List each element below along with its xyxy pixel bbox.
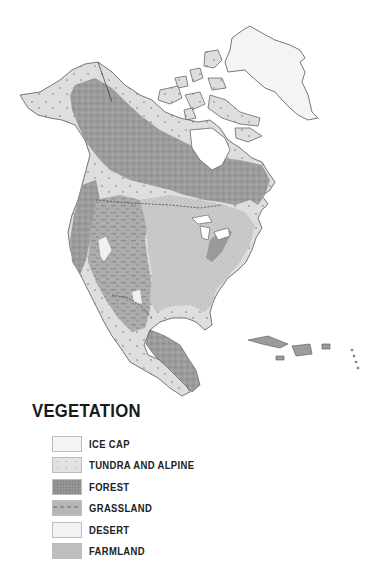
grassland-region (88, 195, 152, 332)
legend-label: ICE CAP (89, 438, 130, 450)
farmland-region (140, 195, 255, 312)
legend-label: TUNDRA AND ALPINE (89, 459, 194, 471)
legend-item-grassland: GRASSLAND (52, 498, 206, 520)
legend-item-ice-cap: ICE CAP (52, 433, 206, 455)
legend-label: FARMLAND (89, 545, 145, 557)
legend-label: DESERT (89, 524, 130, 536)
legend: ICE CAP TUNDRA AND ALPINE FOREST GRASSLA… (52, 433, 206, 562)
legend-item-forest: FOREST (52, 476, 206, 498)
swatch-forest (52, 479, 82, 495)
swatch-grassland (52, 500, 82, 516)
caribbean-islands (248, 336, 359, 369)
legend-item-tundra: TUNDRA AND ALPINE (52, 455, 206, 477)
legend-item-farmland: FARMLAND (52, 541, 206, 563)
swatch-ice-cap (52, 436, 82, 452)
legend-label: FOREST (89, 481, 130, 493)
vegetation-map (0, 0, 388, 400)
legend-title: VEGETATION (32, 400, 141, 422)
legend-label: GRASSLAND (89, 502, 152, 514)
greenland (225, 26, 318, 120)
swatch-tundra (52, 457, 82, 473)
swatch-desert (52, 522, 82, 538)
legend-item-desert: DESERT (52, 519, 206, 541)
swatch-farmland (52, 543, 82, 559)
